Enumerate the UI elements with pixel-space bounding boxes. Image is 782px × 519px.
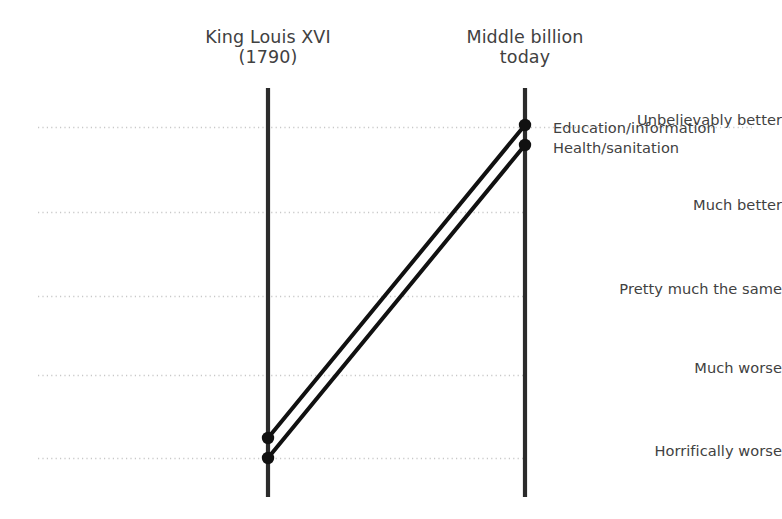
slope-chart: King Louis XVI (1790) Middle billion tod… <box>0 0 782 519</box>
series-line-0 <box>268 125 525 438</box>
series-point-0-0 <box>262 432 274 444</box>
gridlines-group <box>38 128 752 459</box>
point-label-education: Education/information <box>553 119 716 136</box>
chart-canvas <box>0 0 782 519</box>
series-line-1 <box>268 145 525 458</box>
point-label-health: Health/sanitation <box>553 139 679 156</box>
series-point-1-0 <box>262 452 274 464</box>
series-point-1-1 <box>519 139 531 151</box>
series-group <box>262 119 531 464</box>
axes-group <box>268 88 525 497</box>
series-point-0-1 <box>519 119 531 131</box>
